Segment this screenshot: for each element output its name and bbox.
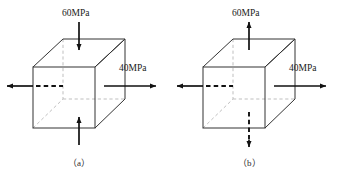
stress-diagram-figure	[0, 0, 341, 177]
stress-diagram-svg	[0, 0, 341, 177]
panel-a-arrows	[7, 22, 156, 145]
panel-a-vertical-stress-label: 60MPa	[62, 8, 89, 18]
panel-b-vertical-stress-label: 60MPa	[232, 8, 259, 18]
panel-a-caption: （a）	[68, 156, 90, 169]
panel-a-horizontal-stress-label: 40MPa	[119, 63, 146, 73]
panel-b	[177, 22, 326, 147]
panel-a	[7, 22, 156, 145]
panel-b-caption: （b）	[238, 156, 261, 169]
panel-b-horizontal-stress-label: 40MPa	[289, 63, 316, 73]
